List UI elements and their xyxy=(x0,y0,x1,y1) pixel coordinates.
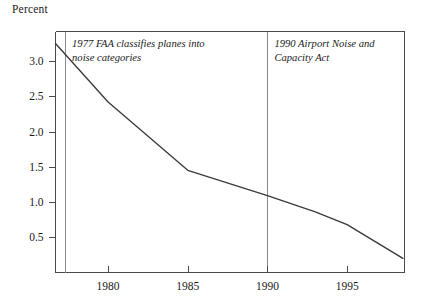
annotation-line: noise categories xyxy=(72,52,141,63)
y-tick-label: 1.0 xyxy=(29,196,44,208)
y-tick-label: 0.5 xyxy=(29,231,44,243)
x-tick-label: 1985 xyxy=(176,280,199,292)
line-chart-plot: 0.51.01.52.02.53.0 1980198519901995 1977… xyxy=(0,0,436,306)
annotation-faa-1977: 1977 FAA classifies planes intonoise cat… xyxy=(72,38,205,63)
x-axis-ticks: 1980198519901995 xyxy=(97,266,359,292)
annotation-anca-1990: 1990 Airport Noise andCapacity Act xyxy=(274,38,375,63)
y-axis-ticks: 0.51.01.52.02.53.0 xyxy=(29,55,55,243)
x-tick-label: 1980 xyxy=(97,280,120,292)
x-tick-label: 1995 xyxy=(336,280,359,292)
y-tick-label: 2.5 xyxy=(29,90,44,102)
y-tick-label: 3.0 xyxy=(29,55,44,67)
y-tick-label: 1.5 xyxy=(29,161,44,173)
x-tick-label: 1990 xyxy=(256,280,279,292)
chart-figure: Percent 0.51.01.52.02.53.0 1980198519901… xyxy=(0,0,436,306)
y-tick-label: 2.0 xyxy=(29,126,44,138)
annotation-labels: 1977 FAA classifies planes intonoise cat… xyxy=(72,38,375,63)
annotation-line: Capacity Act xyxy=(274,52,330,63)
series-line-percent xyxy=(56,43,403,258)
plot-frame xyxy=(56,32,405,273)
data-series-group xyxy=(56,43,403,258)
annotation-line: 1990 Airport Noise and xyxy=(274,38,375,49)
annotation-line: 1977 FAA classifies planes into xyxy=(72,38,205,49)
